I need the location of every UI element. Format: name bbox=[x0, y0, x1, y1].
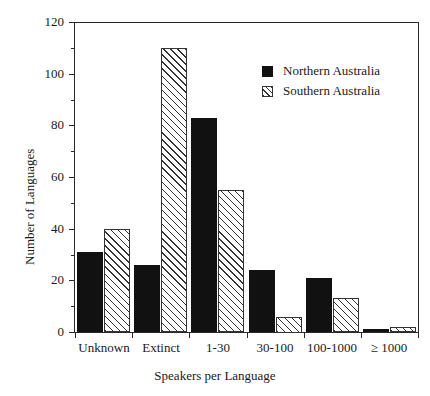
bar-northern bbox=[306, 278, 332, 332]
x-tick-mark bbox=[247, 333, 248, 338]
y-axis-title: Number of Languages bbox=[22, 149, 38, 265]
y-tick-label: 100 bbox=[30, 67, 64, 80]
x-tick-mark bbox=[75, 333, 76, 338]
legend-label-northern: Northern Australia bbox=[283, 62, 380, 80]
bar-southern bbox=[104, 229, 130, 332]
legend-swatch-northern-icon bbox=[262, 66, 273, 77]
y-tick-label: 120 bbox=[30, 15, 64, 28]
y-tick-label: 20 bbox=[30, 273, 64, 286]
x-axis-title: Speakers per Language bbox=[0, 368, 430, 384]
y-tick-label: 40 bbox=[30, 222, 64, 235]
x-tick-mark bbox=[189, 333, 190, 338]
bar-northern bbox=[191, 118, 217, 332]
legend-swatch-southern-icon bbox=[262, 86, 273, 97]
bar-northern bbox=[134, 265, 160, 332]
bar-southern bbox=[218, 190, 244, 332]
y-tick-label: 80 bbox=[30, 118, 64, 131]
y-tick-label: 60 bbox=[30, 170, 64, 183]
x-tick-mark bbox=[418, 333, 419, 338]
bar-northern bbox=[249, 270, 275, 332]
bar-chart-figure: Number of Languages 020406080100120 Unkn… bbox=[0, 0, 430, 396]
bar-southern bbox=[276, 317, 302, 333]
bar-southern bbox=[333, 298, 359, 332]
bar-northern bbox=[363, 329, 389, 332]
y-tick-label: 0 bbox=[30, 325, 64, 338]
plot-top-line bbox=[74, 22, 419, 23]
bar-southern bbox=[390, 327, 416, 332]
x-tick-mark bbox=[361, 333, 362, 338]
plot-right-line bbox=[418, 22, 419, 333]
bar-southern bbox=[161, 48, 187, 332]
legend-label-southern: Southern Australia bbox=[283, 82, 380, 100]
bar-northern bbox=[77, 252, 103, 332]
x-tick-mark bbox=[304, 333, 305, 338]
x-tick-mark bbox=[132, 333, 133, 338]
y-axis-line bbox=[74, 22, 75, 333]
x-tick-label: ≥ 1000 bbox=[339, 341, 430, 355]
